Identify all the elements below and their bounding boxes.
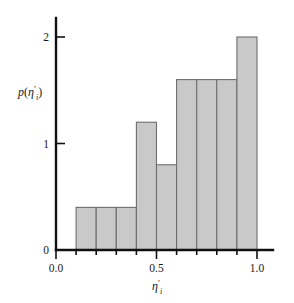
histogram-bar [136,122,156,250]
x-tick-label: 0.5 [149,262,164,274]
x-tick-label: 0.0 [49,262,64,274]
bars-group [76,37,257,250]
x-axis-label: η′i [152,278,162,296]
histogram-bar [96,207,116,250]
x-tick-label: 1.0 [250,262,265,274]
histogram-bar [217,80,237,250]
y-axis-ticks [56,37,65,144]
histogram-figure: 0.00.51.0 012 p(η′i) η′i [0,0,294,303]
y-tick-label: 2 [43,31,49,43]
x-axis-ticks [56,250,257,259]
histogram-bar [116,207,136,250]
y-tick-label: 0 [43,244,49,256]
histogram-bar [177,80,197,250]
histogram-bar [157,165,177,250]
y-axis-tick-labels: 012 [43,31,49,256]
histogram-bar [197,80,217,250]
y-axis-label: p(η′i) [17,84,42,102]
x-axis-label-subscript: i [160,287,162,296]
chart-canvas: 0.00.51.0 012 p(η′i) η′i [0,0,294,303]
x-axis-tick-labels: 0.00.51.0 [49,262,265,274]
histogram-bar [76,207,96,250]
histogram-bar [237,37,257,250]
y-axis-label-p: p [17,85,24,99]
plot-area: 0.00.51.0 012 p(η′i) η′i [0,0,294,303]
y-tick-label: 1 [43,138,49,150]
y-axis-label-close: ) [38,85,42,99]
